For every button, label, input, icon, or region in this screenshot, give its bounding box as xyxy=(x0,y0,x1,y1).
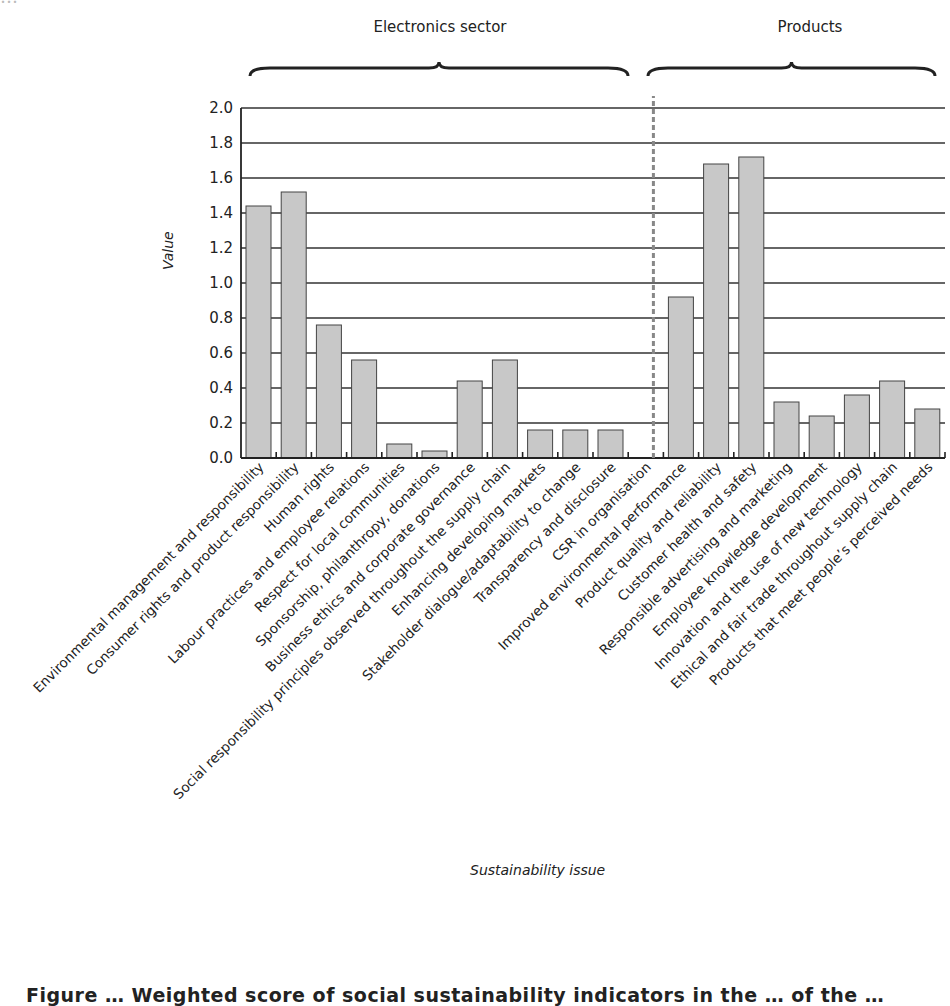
group-brace xyxy=(250,62,628,76)
bar xyxy=(422,451,447,458)
y-tick-label: 1.4 xyxy=(209,204,233,222)
bar xyxy=(774,402,799,458)
bar xyxy=(563,430,588,458)
bar xyxy=(352,360,377,458)
y-tick-label: 0.2 xyxy=(209,414,233,432)
bar xyxy=(281,192,306,458)
y-tick-label: 1.6 xyxy=(209,169,233,187)
x-category-label: Environmental management and responsibil… xyxy=(30,459,267,696)
bar xyxy=(739,157,764,458)
y-tick-label: 2.0 xyxy=(209,99,233,117)
bar xyxy=(528,430,553,458)
bar xyxy=(387,444,412,458)
bar xyxy=(809,416,834,458)
x-axis-title: Sustainability issue xyxy=(470,862,605,878)
group-brace xyxy=(648,62,935,76)
y-tick-label: 0.6 xyxy=(209,344,233,362)
bar xyxy=(915,409,940,458)
bar xyxy=(844,395,869,458)
bar xyxy=(246,206,271,458)
bar xyxy=(668,297,693,458)
y-tick-label: 1.8 xyxy=(209,134,233,152)
bar xyxy=(880,381,905,458)
y-axis-title: Value xyxy=(160,231,176,270)
bar xyxy=(457,381,482,458)
bar xyxy=(316,325,341,458)
bar xyxy=(704,164,729,458)
bar xyxy=(598,430,623,458)
y-tick-label: 0.8 xyxy=(209,309,233,327)
y-tick-label: 1.0 xyxy=(209,274,233,292)
y-tick-label: 1.2 xyxy=(209,239,233,257)
figure-caption: Figure … Weighted score of social sustai… xyxy=(26,984,926,1006)
y-tick-label: 0.0 xyxy=(209,449,233,467)
y-tick-label: 0.4 xyxy=(209,379,233,397)
bar xyxy=(492,360,517,458)
